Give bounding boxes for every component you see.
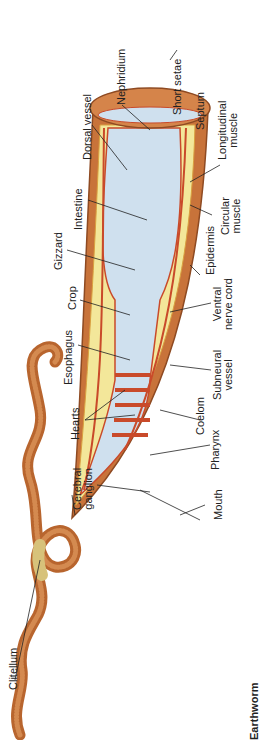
label-clitellum: Clitellum [8,648,19,690]
label-circular-muscle: Circular muscle [220,197,242,235]
diagram-title: Earthworm [248,683,260,740]
label-subneural-line2: vessel [223,350,234,400]
label-epidermis: Epidermis [205,226,216,275]
label-mouth: Mouth [213,489,224,520]
label-ventral-line2: nerve cord [223,278,234,330]
label-longitudinal-line2: muscle [228,101,239,160]
label-coelom: Coelom [195,397,206,435]
label-gizzard: Gizzard [53,232,64,270]
label-crop: Crop [67,286,78,310]
label-subneural-vessel: Subneural vessel [212,350,234,400]
label-hearts: Hearts [70,408,81,440]
label-ventral-nerve-cord: Ventral nerve cord [212,278,234,330]
label-cerebral-ganglion: Cerebral ganglion [72,468,94,510]
earthworm-diagram: Nephridium Dorsal vessel Short setae Sep… [0,0,263,740]
label-longitudinal-muscle: Longitudinal muscle [217,101,239,160]
label-dorsal-vessel: Dorsal vessel [82,94,93,160]
label-esophagus: Esophagus [63,330,74,385]
label-circular-line2: muscle [231,197,242,235]
label-pharynx: Pharynx [210,430,221,470]
label-cerebral-line2: ganglion [83,468,94,510]
label-septum: Septum [195,92,206,130]
label-short-setae: Short setae [172,59,183,115]
label-intestine: Intestine [73,188,84,230]
label-nephridium: Nephridium [116,49,127,105]
